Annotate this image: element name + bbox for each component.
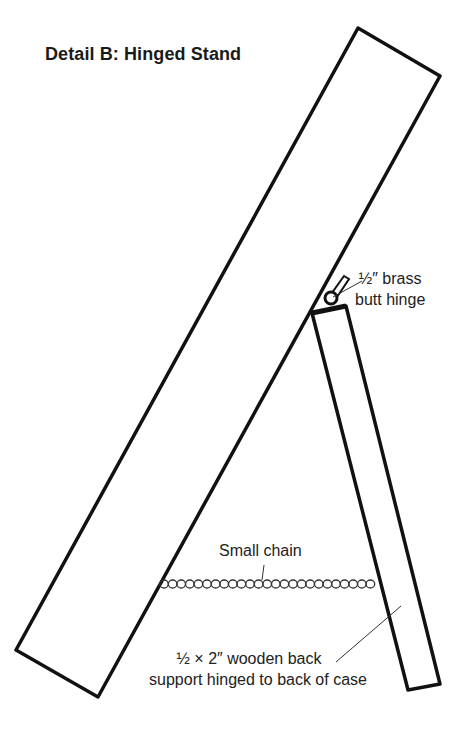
hinged-stand-diagram	[0, 0, 458, 743]
diagram-title: Detail B: Hinged Stand	[45, 44, 241, 65]
chain-leader-line	[262, 565, 264, 580]
support-label-line2: support hinged to back of case	[123, 669, 393, 690]
hinge-knuckle	[325, 292, 337, 304]
hinge-label: ½″ brass butt hinge	[355, 268, 425, 310]
back-support	[312, 306, 440, 690]
support-label-line1: ½ × 2″ wooden back	[105, 648, 393, 669]
case-board	[16, 28, 440, 697]
small-chain	[160, 580, 375, 588]
hinge-label-line1: ½″ brass	[355, 268, 425, 289]
hinge-label-line2: butt hinge	[355, 289, 425, 310]
chain-label: Small chain	[219, 540, 302, 561]
support-label: ½ × 2″ wooden back support hinged to bac…	[123, 648, 393, 690]
